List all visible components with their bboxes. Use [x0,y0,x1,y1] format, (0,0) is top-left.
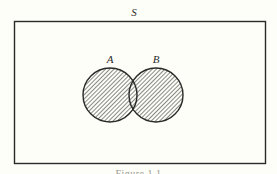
universe-label: S [131,6,137,18]
set-a-label: A [106,53,114,65]
venn-diagram-figure: S A B Figure 1.1 [0,0,277,174]
set-b-label: B [153,53,160,65]
figure-caption: Figure 1.1 [0,168,277,174]
venn-diagram-svg: S A B [0,0,277,174]
